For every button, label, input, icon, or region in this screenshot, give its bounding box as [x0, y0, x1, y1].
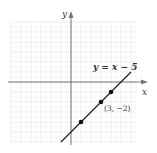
- graph: y x y = x − 5 (3, −2): [0, 0, 157, 153]
- data-point: [99, 100, 104, 105]
- data-point: [79, 120, 84, 125]
- point-label: (3, −2): [104, 104, 131, 113]
- data-point: [109, 90, 114, 95]
- equation-label: y = x − 5: [92, 62, 137, 72]
- y-axis-arrow-icon: [69, 11, 74, 18]
- x-axis-label: x: [142, 87, 147, 97]
- y-axis-label: y: [61, 9, 68, 19]
- x-axis-arrow-icon: [141, 80, 148, 85]
